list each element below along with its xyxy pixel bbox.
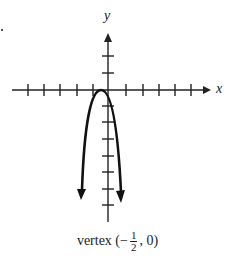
caption-prefix: vertex ( (77, 233, 120, 248)
fraction: 12 (130, 230, 138, 253)
parabola-curve (77, 90, 125, 203)
x-axis (12, 84, 211, 96)
x-axis-label: x (216, 81, 222, 97)
graph-canvas (0, 0, 235, 260)
stray-mark (1, 29, 3, 31)
fraction-denominator: 2 (130, 242, 138, 253)
caption-sign: − (120, 233, 128, 248)
vertex-caption: vertex (−12, 0) (0, 230, 235, 253)
y-axis (102, 33, 114, 222)
arrow-down-right-icon (116, 190, 125, 203)
y-axis-label: y (104, 8, 110, 24)
caption-suffix: , 0) (139, 233, 158, 248)
arrow-down-left-icon (77, 189, 86, 200)
